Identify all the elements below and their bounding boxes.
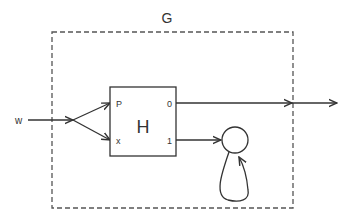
inner-box-label: H	[137, 117, 150, 137]
port-p-label: P	[116, 99, 122, 109]
diagram-canvas: G w H P x 0 1	[0, 0, 354, 218]
edge-split-to-x	[73, 120, 110, 140]
state-circle	[222, 127, 248, 153]
port-1-label: 1	[167, 136, 172, 146]
input-label-w: w	[14, 115, 23, 126]
edge-split-to-p	[73, 103, 110, 120]
outer-box-label: G	[162, 10, 173, 26]
port-0-label: 0	[167, 99, 172, 109]
port-x-label: x	[116, 136, 121, 146]
self-loop-edge	[220, 152, 248, 201]
